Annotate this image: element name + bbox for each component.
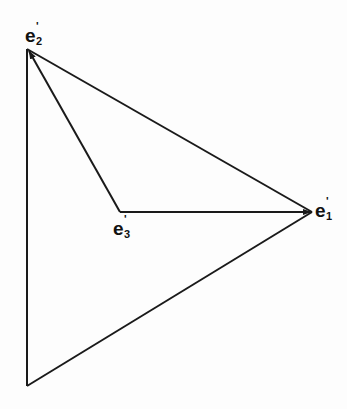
label-e2-index: 2: [36, 36, 42, 47]
label-e3: e'3: [113, 219, 124, 238]
label-e2-base: e: [25, 25, 36, 46]
label-e1-base: e: [315, 200, 326, 221]
label-e3-prime: ': [124, 214, 127, 225]
label-e3-index: 3: [124, 229, 130, 240]
label-e2: e'2: [25, 26, 36, 45]
label-e1-prime: ': [326, 196, 329, 207]
vector-diagram: [0, 0, 347, 409]
label-e1-index: 1: [326, 211, 332, 222]
label-e2-prime: ': [36, 21, 39, 32]
diagram-canvas: e'2 e'1 e'3: [0, 0, 347, 409]
edge-e2-e1: [27, 49, 312, 212]
edge-e1-bottom: [27, 212, 312, 386]
label-e3-base: e: [113, 218, 124, 239]
label-e1: e'1: [315, 201, 326, 220]
